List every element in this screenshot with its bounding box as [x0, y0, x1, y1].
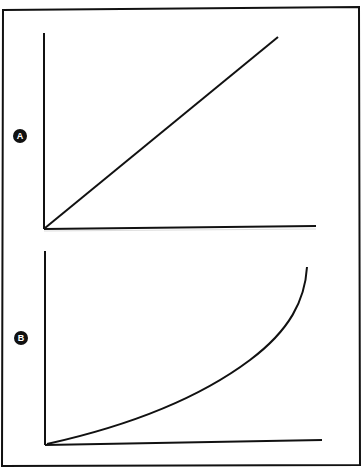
panel-a-x-axis [44, 226, 316, 229]
panel-a-label: A [17, 131, 24, 141]
panel-b-exponential-curve [47, 267, 307, 444]
panel-a-linear-line [45, 37, 278, 228]
panel-b-x-axis [45, 440, 322, 445]
panel-a-graph [44, 33, 316, 229]
panel-a-label-badge: A [13, 129, 27, 143]
panel-b-label: B [18, 333, 25, 343]
figure-canvas [0, 0, 361, 469]
panel-b-label-badge: B [14, 331, 28, 345]
outer-frame [2, 7, 360, 466]
panel-b-graph [45, 251, 322, 445]
